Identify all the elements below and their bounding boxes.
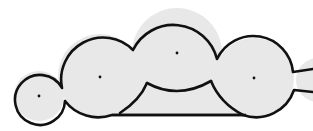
dot-3	[176, 52, 179, 55]
lobe-chain-diagram	[0, 0, 313, 131]
diagram-canvas	[0, 0, 313, 131]
dot-4	[253, 77, 256, 80]
lobe-5	[296, 58, 313, 102]
dot-2	[99, 76, 102, 79]
dot-1	[38, 95, 41, 98]
